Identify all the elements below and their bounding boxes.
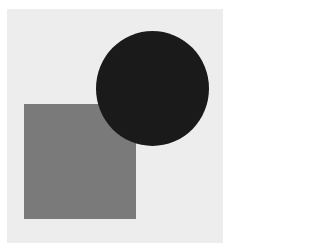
black-circle: [96, 31, 209, 146]
